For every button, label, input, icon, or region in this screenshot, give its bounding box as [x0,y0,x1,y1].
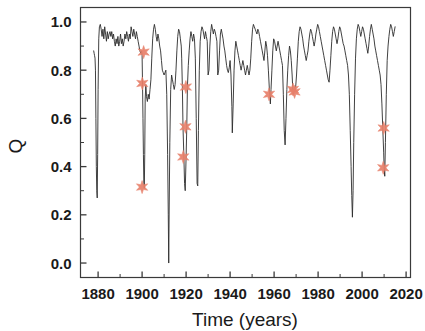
y-axis-title: Q [5,139,26,154]
x-tick-label: 2000 [345,285,378,302]
x-tick-label: 1920 [169,285,202,302]
x-axis-title: Time (years) [192,309,298,330]
x-tick-label: 1880 [81,285,114,302]
x-tick-label: 1980 [301,285,334,302]
x-tick-label: 1900 [125,285,158,302]
x-axis-tick-labels: 18801900192019401960198020002020 [81,285,422,302]
x-tick-label: 1960 [257,285,290,302]
x-tick-label: 1940 [213,285,246,302]
y-tick-label: 0.8 [51,62,72,79]
chart-figure: 0.00.20.40.60.81.0 188019001920194019601… [0,0,425,331]
y-tick-label: 0.6 [51,110,72,127]
chart-plot-area: 0.00.20.40.60.81.0 188019001920194019601… [0,0,425,331]
x-tick-label: 2020 [389,285,422,302]
y-tick-label: 0.2 [51,206,72,223]
y-tick-label: 0.0 [51,255,72,272]
y-tick-label: 0.4 [51,158,73,175]
y-tick-label: 1.0 [51,13,72,30]
plot-frame [81,8,411,278]
y-axis-tick-labels: 0.00.20.40.60.81.0 [51,13,73,271]
